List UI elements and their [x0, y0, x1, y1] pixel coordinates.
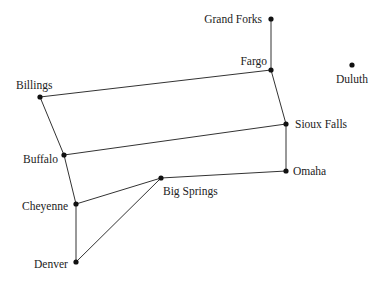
node-buffalo [61, 152, 66, 157]
node-grand-forks [268, 16, 273, 21]
label-denver: Denver [34, 258, 68, 270]
label-duluth: Duluth [336, 73, 368, 85]
node-omaha [283, 168, 288, 173]
nodes-layer [37, 16, 354, 264]
node-fargo [268, 67, 273, 72]
city-graph-diagram: Grand ForksFargoDuluthBillingsSioux Fall… [0, 0, 383, 281]
edge-fargo-billings [40, 70, 271, 97]
edge-buffalo-cheyenne [64, 155, 76, 204]
edge-sioux-falls-buffalo [64, 124, 286, 155]
node-sioux-falls [283, 121, 288, 126]
node-cheyenne [73, 201, 78, 206]
label-sioux-falls: Sioux Falls [295, 118, 348, 130]
edge-omaha-big-springs [161, 171, 286, 178]
node-billings [37, 94, 42, 99]
node-denver [73, 259, 78, 264]
label-billings: Billings [16, 79, 53, 92]
label-omaha: Omaha [293, 165, 326, 177]
graph-canvas: Grand ForksFargoDuluthBillingsSioux Fall… [0, 0, 383, 281]
labels-layer: Grand ForksFargoDuluthBillingsSioux Fall… [16, 13, 368, 270]
edge-fargo-sioux-falls [271, 70, 286, 124]
node-big-springs [158, 175, 163, 180]
label-fargo: Fargo [240, 55, 267, 68]
label-cheyenne: Cheyenne [22, 200, 68, 213]
label-grand-forks: Grand Forks [204, 13, 262, 25]
node-duluth [349, 62, 354, 67]
edge-billings-buffalo [40, 97, 64, 155]
label-big-springs: Big Springs [163, 185, 218, 198]
label-buffalo: Buffalo [23, 153, 58, 165]
